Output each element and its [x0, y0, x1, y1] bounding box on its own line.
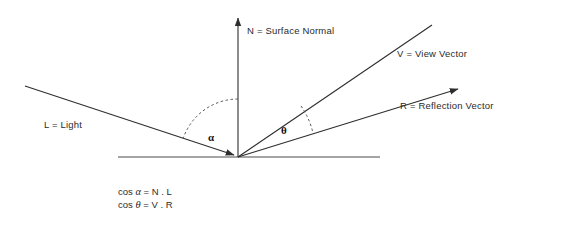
- alpha-angle-label: α: [208, 131, 214, 143]
- view-vector-line: [238, 25, 432, 157]
- formula-row-theta: cos θ = V . R: [118, 199, 173, 212]
- vector-diagram: N = Surface Normal V = View Vector R = R…: [0, 0, 565, 230]
- theta-angle-label: θ: [281, 124, 287, 136]
- formula-block: cos α = N . L cos θ = V . R: [118, 186, 173, 211]
- reflection-vector-label: R = Reflection Vector: [400, 100, 494, 112]
- formula-alpha-prefix: cos: [118, 186, 135, 197]
- formula-theta-suffix: = V . R: [141, 199, 173, 210]
- light-vector-label: L = Light: [44, 119, 82, 131]
- formula-row-alpha: cos α = N . L: [118, 186, 173, 199]
- normal-vector-label: N = Surface Normal: [247, 25, 334, 37]
- view-vector-label: V = View Vector: [397, 48, 467, 60]
- formula-alpha-suffix: = N . L: [141, 186, 172, 197]
- formula-theta-prefix: cos: [118, 199, 135, 210]
